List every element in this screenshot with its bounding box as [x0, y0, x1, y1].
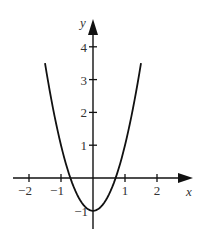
y-tick-label: −1	[74, 204, 88, 219]
parabola-chart: −2−112 −11234 x y	[0, 0, 203, 240]
x-tick-label: 2	[154, 183, 161, 198]
y-tick-label: 3	[81, 73, 88, 88]
x-tick-label: −2	[18, 183, 32, 198]
y-axis-label: y	[78, 15, 86, 30]
y-tick-label: 1	[81, 138, 88, 153]
y-tick-label: 4	[81, 40, 88, 55]
x-tick-label: −1	[50, 183, 64, 198]
y-axis-arrow-icon	[88, 19, 98, 35]
x-tick-label: 1	[122, 183, 129, 198]
x-axis-arrow-icon	[178, 173, 193, 183]
x-axis-label: x	[185, 184, 192, 199]
y-tick-label: 2	[81, 105, 88, 120]
